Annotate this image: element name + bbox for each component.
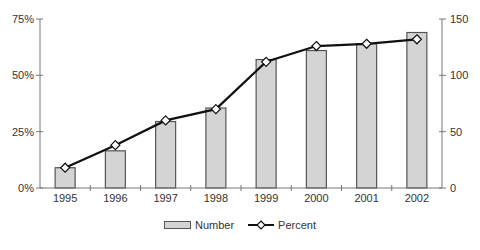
right-tick-label: 0 — [450, 182, 456, 194]
bar-2001 — [357, 44, 377, 188]
right-tick-label: 150 — [450, 13, 468, 25]
x-tick-label: 2001 — [354, 192, 378, 204]
left-tick-label: 75% — [12, 13, 34, 25]
bar-2000 — [306, 51, 326, 188]
line-diamond-swatch-icon — [248, 220, 274, 230]
x-tick-label: 1996 — [103, 192, 127, 204]
right-tick-label: 100 — [450, 69, 468, 81]
bar-1997 — [156, 122, 176, 188]
legend-label-percent: Percent — [278, 219, 316, 231]
x-tick-label: 1998 — [204, 192, 228, 204]
x-tick-label: 1995 — [53, 192, 77, 204]
bar-1999 — [256, 60, 276, 188]
bar-swatch-icon — [164, 221, 191, 229]
legend-label-number: Number — [195, 219, 234, 231]
right-tick-label: 50 — [450, 126, 462, 138]
diamond-marker-icon — [111, 141, 120, 150]
x-tick-label: 1997 — [153, 192, 177, 204]
legend-item-percent: Percent — [248, 219, 316, 231]
x-tick-label: 1999 — [254, 192, 278, 204]
bar-1998 — [206, 108, 226, 188]
combo-chart: 0%25%50%75%05010015019951996199719981999… — [0, 0, 480, 215]
left-tick-label: 0% — [18, 182, 34, 194]
left-tick-label: 25% — [12, 126, 34, 138]
x-tick-label: 2000 — [304, 192, 328, 204]
left-tick-label: 50% — [12, 69, 34, 81]
legend-item-number: Number — [164, 219, 234, 231]
x-tick-label: 2002 — [405, 192, 429, 204]
bar-1996 — [105, 151, 125, 188]
bar-2002 — [407, 33, 427, 188]
diamond-marker-icon — [312, 42, 321, 51]
legend: Number Percent — [0, 219, 480, 231]
